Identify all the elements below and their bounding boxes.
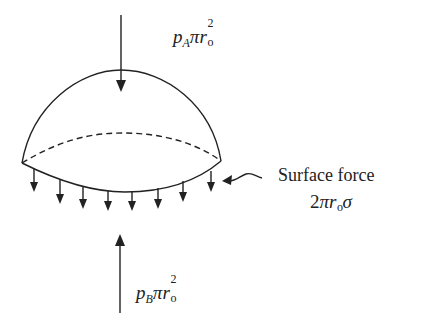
- radius-subscript: o: [337, 200, 343, 215]
- surface-force-label: Surface force: [278, 165, 374, 186]
- top-force-label: pAπr2o: [173, 26, 207, 51]
- cap-rim-front: [22, 161, 221, 192]
- surface-force-arrows: [30, 169, 215, 211]
- pressure-symbol: p: [173, 26, 183, 47]
- pi-symbol: π: [190, 26, 200, 47]
- diagram-canvas: pAπr2o Surface force 2πroσ pBπr2o: [0, 0, 423, 326]
- bottom-force-label: pBπr2o: [136, 282, 170, 307]
- exponent: 2: [207, 16, 213, 31]
- pressure-symbol: p: [136, 282, 146, 303]
- pressure-subscript: A: [183, 36, 190, 50]
- radius-symbol: r: [329, 191, 336, 212]
- radius-symbol: r: [162, 282, 169, 303]
- pressure-subscript: B: [146, 292, 153, 306]
- cap-rim-back-dashed: [22, 133, 221, 163]
- surface-force-leader: [229, 173, 262, 181]
- sigma-symbol: σ: [342, 191, 351, 212]
- radius-subscript: o: [170, 291, 176, 306]
- coefficient: 2: [310, 191, 320, 212]
- surface-force-expression: 2πroσ: [310, 191, 352, 213]
- radius-symbol: r: [199, 26, 206, 47]
- pi-symbol: π: [320, 191, 330, 212]
- exponent: 2: [170, 272, 176, 287]
- radius-subscript: o: [207, 35, 213, 50]
- pi-symbol: π: [153, 282, 163, 303]
